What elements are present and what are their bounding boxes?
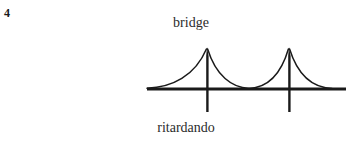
cable-span-right-half [249,49,288,88]
ritardando-label: ritardando [0,119,346,137]
tower-2-mast [288,47,290,112]
cable-left-approach [147,49,206,88]
cable-span-left-half [208,49,249,88]
cable-right-approach [290,49,332,88]
tower-1-mast [206,47,208,112]
figure-container: 4 bridge ritardando [0,0,346,141]
